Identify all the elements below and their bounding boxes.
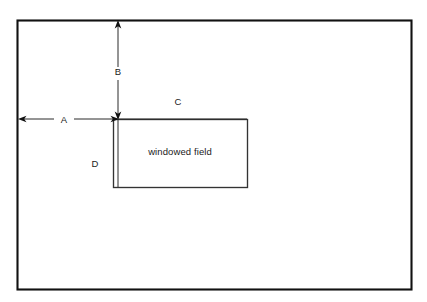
dimension-label-b: B (115, 66, 122, 77)
dimension-label-c: C (174, 96, 181, 107)
dimension-label-d: D (91, 158, 98, 169)
diagram-canvas: B A C D windowed field (0, 0, 427, 302)
dimension-label-a: A (61, 114, 68, 125)
windowed-field-label: windowed field (147, 146, 212, 157)
windowed-field-diagram: B A C D windowed field (0, 0, 427, 302)
outer-field-rectangle (18, 21, 412, 290)
